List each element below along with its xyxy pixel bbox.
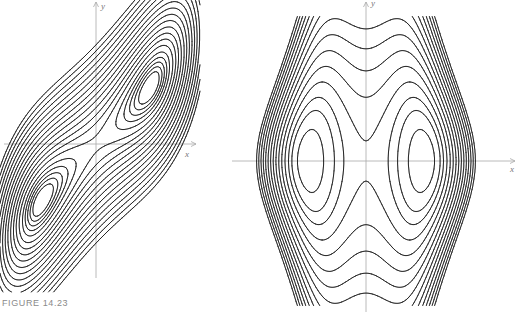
left-contour-curves — [0, 0, 200, 292]
left-contour-plot: x y — [0, 0, 200, 292]
left-y-axis-label: y — [100, 1, 105, 11]
figure-caption: FIGURE 14.23 — [2, 298, 68, 308]
right-x-axis-label: x — [509, 164, 514, 174]
left-x-axis-label: x — [184, 149, 189, 159]
right-contour-plot: x y — [232, 0, 515, 312]
right-y-axis-label: y — [370, 0, 375, 8]
figure-canvas: x y x y — [0, 0, 532, 315]
right-axes — [232, 2, 515, 312]
